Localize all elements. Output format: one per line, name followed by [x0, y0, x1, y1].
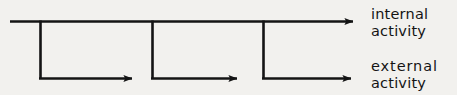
external-activity-label-line2: activity: [371, 75, 438, 92]
diagram-canvas: internal activity external activity: [0, 0, 457, 95]
internal-activity-label: internal activity: [371, 6, 428, 40]
internal-activity-label-line1: internal: [371, 6, 428, 23]
internal-activity-label-line2: activity: [371, 23, 428, 40]
external-activity-label-line1: external: [371, 58, 438, 75]
external-activity-label: external activity: [371, 58, 438, 92]
